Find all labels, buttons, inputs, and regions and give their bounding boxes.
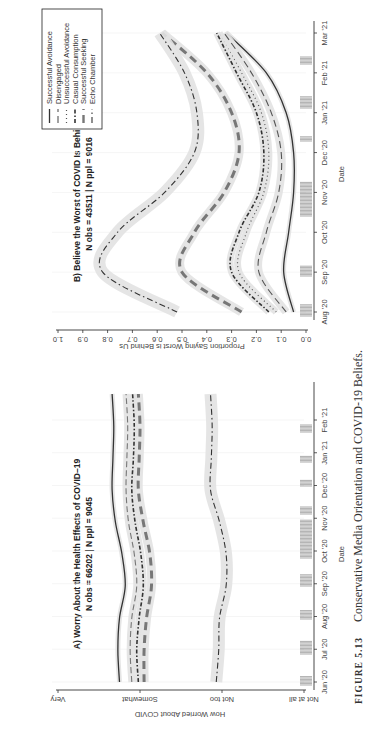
x-tick-label: Feb '21 <box>320 60 329 85</box>
x-tick-label: Nov '20 <box>320 180 329 205</box>
panel-b-y-label: Proportion Saying Worst is Behind Us <box>119 342 245 351</box>
x-tick-label: Jun '20 <box>320 670 329 694</box>
y-tick-label: Somewhat <box>121 695 157 704</box>
y-tick-label: 0.9 <box>78 335 88 344</box>
x-tick-label: Feb '21 <box>320 408 329 433</box>
caption-label: FIGURE 5.13 <box>354 637 364 704</box>
panel-b-date-rug <box>300 57 312 316</box>
y-tick-label: 0.0 <box>301 335 311 344</box>
panel-b-x-label: Date <box>337 166 346 182</box>
x-tick-label: Aug '20 <box>320 604 329 629</box>
series-echo-chamber <box>210 394 227 682</box>
figure-stage: A) Worry About the Health Effects of COV… <box>0 0 368 734</box>
panel-b-title: B) Believe the Worst of COVID Is Behind … <box>72 106 82 282</box>
figure-caption: FIGURE 5.13 Conservative Media Orientati… <box>351 350 365 704</box>
y-tick-label: 1.0 <box>53 335 63 344</box>
x-tick-label: Jan '21 <box>320 101 329 125</box>
caption-text: Conservative Media Orientation and COVID… <box>351 350 365 622</box>
x-tick-label: Jan '21 <box>320 441 329 465</box>
x-tick-label: Aug '20 <box>320 299 329 324</box>
x-tick-label: Mar '21 <box>320 21 329 46</box>
x-tick-label: Oct '20 <box>320 539 329 563</box>
x-tick-label: Jul '20 <box>320 639 329 660</box>
panel-b-legend: Successful AvoidanceDisengagedUnsuccessf… <box>42 9 102 129</box>
x-tick-label: Sep '20 <box>320 260 329 285</box>
panel-a-title: A) Worry About the Health Effects of COV… <box>72 459 82 650</box>
y-tick-label: 0.2 <box>251 335 261 344</box>
x-tick-label: Nov '20 <box>320 506 329 531</box>
panel-a-subtitle: N obs = 66202 | N ppl = 9045 <box>84 497 94 611</box>
y-tick-label: Not too <box>210 695 234 704</box>
panel-a-x-label: Date <box>337 546 346 562</box>
legend-item: Echo Chamber <box>88 53 97 104</box>
y-tick-label: Very <box>50 695 65 704</box>
panel-a-y-label: How Worried About COVID <box>134 710 225 719</box>
panel-a: A) Worry About the Health Effects of COV… <box>50 382 346 719</box>
panel-b: B) Believe the Worst of COVID Is Behind … <box>42 9 346 351</box>
x-tick-label: Dec '20 <box>320 140 329 165</box>
y-tick-label: Not at all <box>289 695 319 704</box>
panel-a-series <box>112 394 227 682</box>
x-tick-label: Oct '20 <box>320 221 329 245</box>
x-tick-label: Sep '20 <box>320 571 329 596</box>
panel-a-gridlines <box>52 420 304 682</box>
panel-a-date-rug <box>300 425 312 685</box>
x-tick-label: Dec '20 <box>320 473 329 498</box>
panel-b-series <box>99 33 294 312</box>
series-successful-avoidance <box>112 394 125 682</box>
figure-canvas: A) Worry About the Health Effects of COV… <box>0 0 368 734</box>
panel-b-subtitle: N obs = 43511 | N ppl = 9016 <box>84 137 94 251</box>
y-tick-label: 0.8 <box>102 335 112 344</box>
y-tick-label: 0.1 <box>276 335 286 344</box>
